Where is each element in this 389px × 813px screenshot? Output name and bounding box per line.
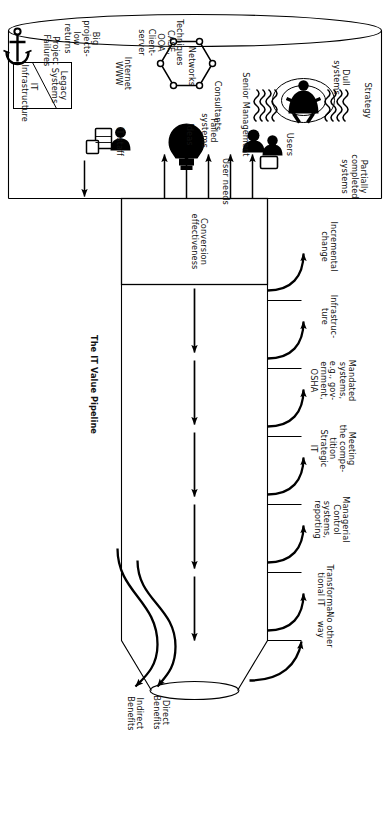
failed-systems-label: Failed systems: [198, 108, 217, 152]
legend-label-it-infrastructure: IT Infrastructure: [18, 64, 37, 108]
branch-spine: [267, 300, 301, 640]
failed-systems-arrows: [164, 154, 252, 198]
input-label-internet-www: Internet WWW: [112, 48, 131, 98]
diagram-canvas: Strategy Dull systems Senior Management …: [0, 0, 389, 813]
input-label-it-staff: IT staff: [114, 120, 123, 162]
input-label-techniques: Techniques CASE, OOA Client- server: [136, 14, 183, 70]
input-label-dull-systems: Dull systems: [330, 52, 349, 102]
outcome-label-no-other-way: No other way: [314, 606, 333, 652]
outcome-label-mandated-systems: Mandated systems, e.g., gov- ernment, OS…: [308, 352, 355, 408]
input-label-strategy: Strategy: [362, 72, 371, 128]
output-label-indirect-benefits: Indirect Benefits: [124, 690, 143, 736]
pipeline-title: The IT Value Pipeline: [88, 332, 97, 436]
it-value-pipeline-figure: Strategy Dull systems Senior Management …: [0, 0, 389, 813]
input-label-networks: Networks: [186, 42, 195, 90]
conversion-effectiveness-label: Conversion effectiveness: [188, 204, 207, 278]
output-label-direct-benefits: Direct Benefits: [150, 690, 169, 734]
input-label-users: Users: [284, 124, 293, 164]
outcome-label-infrastructure: Infrastruc- ture: [318, 290, 337, 342]
outcome-label-managerial-control: Managerial Control systems, reporting: [311, 490, 349, 548]
outcome-label-meeting-competition: Meeting the compe- tition Strategic IT: [308, 420, 355, 476]
anchor-label-project-failures: Project Failures: [40, 28, 59, 72]
benefit-output-arrows: [117, 548, 175, 686]
anchor-icon: [3, 28, 31, 64]
outcome-label-incremental-change: Incremental change: [318, 218, 337, 274]
direct-benefits-arrow: [137, 560, 175, 686]
outcome-arrows: [249, 253, 303, 680]
input-label-user-needs: User needs: [220, 152, 229, 210]
input-label-big-projects: Big projects- low returns: [61, 14, 99, 62]
input-label-senior-management: Senior Management: [240, 68, 249, 160]
input-label-partially-completed-systems: Partially completed systems: [339, 148, 367, 204]
input-label-ideas: Ideas: [184, 116, 193, 152]
